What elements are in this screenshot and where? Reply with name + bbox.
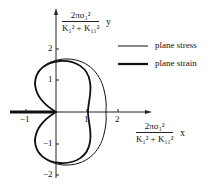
legend-label-plane-stress: plane stress	[155, 41, 197, 50]
plot-canvas	[0, 0, 215, 187]
legend-label-plane-strain: plane strain	[155, 59, 197, 68]
y-axis-label: 2πσ₁² K₁² + K₁₁²	[62, 11, 99, 33]
y-axis-arrow-icon	[54, 8, 58, 15]
y-tick-2: 2	[48, 44, 53, 53]
y-tick-neg2: −2	[43, 170, 53, 179]
y-tick-neg1: −1	[43, 139, 53, 148]
y-tick-1: 1	[48, 75, 53, 84]
x-tick-1: 1	[84, 115, 89, 124]
y-axis-variable: y	[106, 16, 111, 27]
x-axis-label: 2πσ₁² K₁² + K₁₁²	[136, 122, 173, 144]
x-axis-arrow-icon	[145, 110, 152, 114]
x-tick-neg1: −1	[20, 115, 30, 124]
x-axis-label-numerator: 2πσ₁²	[136, 122, 173, 133]
x-axis-variable: x	[180, 127, 185, 138]
x-tick-2: 2	[115, 115, 120, 124]
y-axis-label-denominator: K₁² + K₁₁²	[62, 22, 99, 33]
y-axis-label-numerator: 2πσ₁²	[62, 11, 99, 22]
x-axis-label-denominator: K₁² + K₁₁²	[136, 133, 173, 144]
